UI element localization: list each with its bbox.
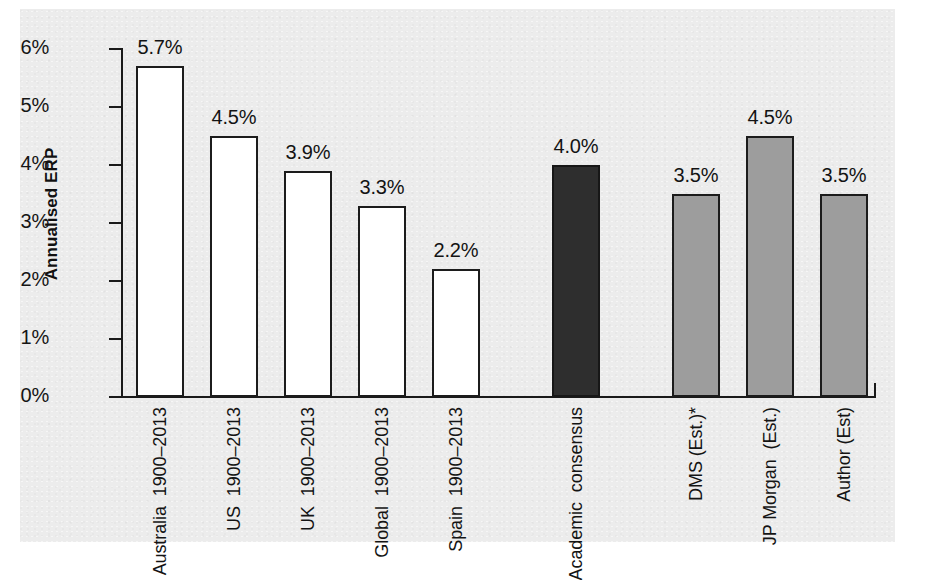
- bar-value-australia: 5.7%: [120, 36, 200, 59]
- category-label-line: DMS (Est.)*: [686, 407, 707, 501]
- y-tick-label: 5%: [20, 94, 49, 117]
- plot-area: Annualised ERP 0%1%2%3%4%5%6% 5.7%4.5%3.…: [20, 9, 895, 542]
- category-label-line: consensus: [566, 407, 587, 492]
- category-label-line: 1900–2013: [150, 407, 171, 496]
- category-label-line: Global: [372, 506, 393, 557]
- y-tick-label: 3%: [20, 210, 49, 233]
- category-label-line: Spain: [446, 506, 467, 552]
- category-label-line: 1900–2013: [298, 407, 319, 496]
- y-tick-5: [109, 106, 122, 108]
- y-tick-3: [109, 222, 122, 224]
- y-tick-label: 0%: [20, 384, 49, 407]
- bar-global[interactable]: [358, 206, 406, 397]
- bar-value-author-est: 3.5%: [804, 164, 884, 187]
- y-tick-0: [109, 396, 122, 398]
- category-label-academic-consensus: Academicconsensus: [552, 407, 600, 557]
- bar-value-jp-morgan-est: 4.5%: [730, 106, 810, 129]
- category-label-line: 1900–2013: [372, 407, 393, 496]
- bar-value-spain: 2.2%: [416, 239, 496, 262]
- category-label-jp-morgan-est: JP Morgan(Est.): [746, 407, 794, 557]
- bar-australia[interactable]: [136, 66, 184, 397]
- bar-value-uk: 3.9%: [268, 141, 348, 164]
- y-tick-label: 2%: [20, 268, 49, 291]
- category-label-us: US1900–2013: [210, 407, 258, 557]
- y-tick-label: 4%: [20, 152, 49, 175]
- y-tick-label: 6%: [20, 36, 49, 59]
- category-label-line: 1900–2013: [446, 407, 467, 496]
- category-label-line: Academic: [566, 502, 587, 580]
- category-label-line: (Est.): [760, 407, 781, 449]
- bar-value-global: 3.3%: [342, 176, 422, 199]
- y-tick-2: [109, 280, 122, 282]
- bar-author-est[interactable]: [820, 194, 868, 397]
- category-label-spain: Spain1900–2013: [432, 407, 480, 557]
- bar-us[interactable]: [210, 136, 258, 397]
- bar-uk[interactable]: [284, 171, 332, 397]
- y-tick-label: 1%: [20, 326, 49, 349]
- category-label-australia: Australia1900–2013: [136, 407, 184, 557]
- bar-jp-morgan-est[interactable]: [746, 136, 794, 397]
- category-label-line: Author (Est): [834, 407, 855, 502]
- category-label-dms-est: DMS (Est.)*: [672, 407, 720, 557]
- category-label-line: 1900–2013: [224, 407, 245, 496]
- bar-academic-consensus[interactable]: [552, 165, 600, 397]
- bar-value-dms-est: 3.5%: [656, 164, 736, 187]
- bar-spain[interactable]: [432, 269, 480, 397]
- category-label-author-est: Author (Est): [820, 407, 868, 557]
- y-tick-4: [109, 164, 122, 166]
- bar-value-academic-consensus: 4.0%: [536, 135, 616, 158]
- category-label-line: Australia: [150, 506, 171, 575]
- category-label-line: US: [224, 506, 245, 531]
- category-label-line: JP Morgan: [760, 459, 781, 545]
- y-tick-1: [109, 338, 122, 340]
- category-label-global: Global1900–2013: [358, 407, 406, 557]
- chart-panel: Annualised ERP 0%1%2%3%4%5%6% 5.7%4.5%3.…: [20, 9, 895, 542]
- x-axis-end-cap: [874, 383, 876, 398]
- category-label-uk: UK1900–2013: [284, 407, 332, 557]
- bar-dms-est[interactable]: [672, 194, 720, 397]
- bar-value-us: 4.5%: [194, 106, 274, 129]
- category-label-line: UK: [298, 506, 319, 531]
